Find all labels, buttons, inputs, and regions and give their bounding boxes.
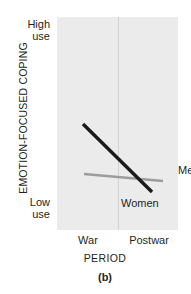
series-lines <box>57 17 178 230</box>
y-tick-high-line1: High <box>27 18 50 30</box>
figure-panel-b: Men Women High use Low use EMOTION-FOCUS… <box>0 0 191 294</box>
y-tick-low-line1: Low <box>30 196 50 208</box>
series-label-men: Men <box>178 164 191 176</box>
y-tick-low-line2: use <box>6 209 50 221</box>
men-line <box>83 124 152 192</box>
panel-caption: (b) <box>40 271 170 283</box>
x-tick-war: War <box>62 234 114 246</box>
women-line <box>84 174 163 181</box>
y-axis-title: EMOTION-FOCUSED COPING <box>17 33 29 203</box>
x-axis-title: PERIOD <box>40 252 170 264</box>
series-label-women: Women <box>121 197 159 209</box>
x-tick-postwar: Postwar <box>118 234 180 246</box>
plot-area: Men Women <box>57 17 178 230</box>
